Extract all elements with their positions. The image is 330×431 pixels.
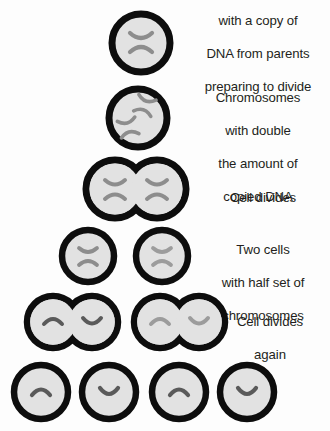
cell-membrane	[152, 365, 206, 419]
cell-membrane	[62, 230, 114, 282]
dividing-pair-left	[27, 296, 118, 348]
stage-3-cells	[80, 154, 192, 224]
caption-line: Chromosomes	[186, 90, 330, 106]
caption-line: with double	[186, 123, 330, 139]
stage-4: Two cells with half set of chromosomes	[0, 222, 330, 288]
cell-membrane-outline	[86, 160, 186, 218]
cell-membrane	[109, 89, 167, 147]
caption-line: with a copy of	[186, 13, 330, 29]
stage-4-cells	[58, 224, 192, 288]
stage-2: Chromosomes with double the amount of co…	[0, 78, 330, 152]
stage-6-cells	[8, 358, 280, 426]
cell-membrane	[136, 230, 188, 282]
caption-line: Cell divides	[196, 190, 330, 206]
stage-6	[0, 354, 330, 431]
stage-5: Cell divides again	[0, 288, 330, 354]
cell-group-four-separate	[8, 358, 280, 426]
cell-division-diagram: with a copy of DNA from parents preparin…	[0, 0, 330, 431]
cell-group-two-separate	[58, 224, 192, 288]
cell-group-dividing	[80, 154, 192, 224]
stage-3-caption: Cell divides	[196, 174, 330, 223]
stage-1-cells	[104, 8, 178, 78]
caption-line: DNA from parents	[186, 46, 330, 62]
cell-group-single	[100, 82, 176, 154]
cell-membrane	[14, 365, 68, 419]
cell-group-single	[104, 8, 178, 78]
stage-3: Cell divides	[0, 152, 330, 222]
cell-membrane	[112, 14, 170, 72]
stage-1: with a copy of DNA from parents preparin…	[0, 0, 330, 78]
caption-line: Cell divides	[210, 314, 330, 330]
stage-2-cells	[100, 82, 176, 154]
stage-5-cells	[22, 290, 230, 354]
caption-line: Two cells	[196, 242, 330, 258]
cell-group-two-dividing-pairs	[22, 290, 230, 354]
